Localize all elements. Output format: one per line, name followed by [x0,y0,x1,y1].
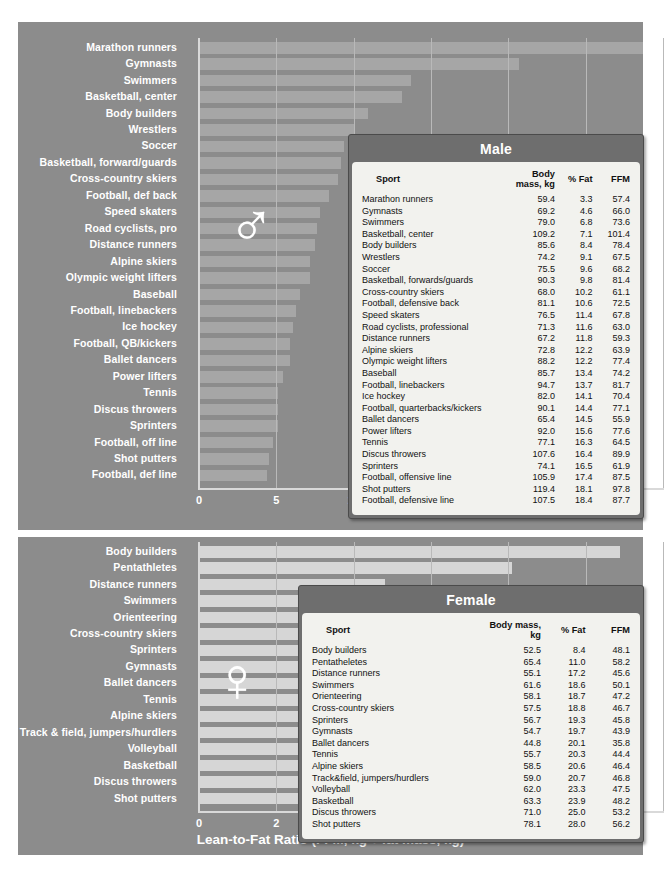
cell-ffm: 89.9 [592,449,630,461]
cell-pct-fat: 23.9 [541,796,586,808]
cell-pct-fat: 19.3 [541,715,586,727]
cell-sport: Body builders [362,240,504,252]
cell-pct-fat: 6.8 [555,217,593,229]
cell-body-mass: 109.2 [504,229,555,241]
bar [199,793,300,805]
cell-pct-fat: 10.6 [555,298,593,310]
male-label-22: Discus throwers [94,404,177,415]
cell-sport: Swimmers [362,217,504,229]
female-label-0: Body builders [106,546,177,557]
female-label-9: Tennis [143,694,177,705]
cell-body-mass: 61.6 [481,680,541,692]
table-row: Pentatheletes65.411.058.2 [312,657,630,669]
female-label-1: Pentathletes [113,562,177,573]
cell-sport: Ice hockey [362,391,504,403]
table-row: Wrestlers74.29.167.5 [362,252,630,264]
cell-pct-fat: 8.4 [541,645,586,657]
cell-sport: Football, offensive line [362,472,504,484]
cell-ffm: 63.9 [592,345,630,357]
cell-ffm: 45.8 [585,715,630,727]
bar [199,371,283,383]
cell-pct-fat: 16.5 [555,461,593,473]
male-label-5: Wrestlers [128,124,177,135]
male-label-8: Cross-country skiers [70,173,177,184]
cell-sport: Gymnasts [362,206,504,218]
y-axis-line [198,38,200,490]
table-row: Football, quarterbacks/kickers90.114.477… [362,403,630,415]
cell-ffm: 63.0 [592,322,630,334]
table-row: Discus throwers71.025.053.2 [312,807,630,819]
bar [199,453,269,465]
cell-body-mass: 56.7 [481,715,541,727]
cell-sport: Cross-country skiers [312,703,481,715]
cell-body-mass: 77.1 [504,437,555,449]
cell-body-mass: 76.5 [504,310,555,322]
cell-pct-fat: 25.0 [541,807,586,819]
table-row: Basketball, forwards/guards90.39.881.4 [362,275,630,287]
cell-pct-fat: 13.4 [555,368,593,380]
cell-body-mass: 59.4 [504,194,555,206]
male-table-body: Sport Body mass, kg % Fat FFM Marathon r… [352,162,640,515]
table-row: Basketball63.323.948.2 [312,796,630,808]
cell-body-mass: 75.5 [504,264,555,276]
cell-sport: Speed skaters [362,310,504,322]
gridline [663,38,664,488]
table-row: Speed skaters76.511.467.8 [362,310,630,322]
male-label-14: Olympic weight lifters [66,272,177,283]
cell-sport: Olympic weight lifters [362,356,504,368]
male-table-title: Male [352,138,640,162]
female-label-14: Discus throwers [94,776,177,787]
gridline [663,542,664,811]
cell-body-mass: 74.2 [504,252,555,264]
table-row: Distance runners67.211.859.3 [362,333,630,345]
cell-ffm: 61.1 [592,287,630,299]
cell-sport: Shot putters [312,819,481,831]
table-row: Cross-country skiers68.010.261.1 [362,287,630,299]
cell-ffm: 81.4 [592,275,630,287]
table-row: Football, offensive line105.917.487.5 [362,472,630,484]
cell-ffm: 66.0 [592,206,630,218]
bar [199,404,278,416]
cell-pct-fat: 14.4 [555,403,593,415]
cell-body-mass: 58.1 [481,691,541,703]
cell-ffm: 47.5 [585,784,630,796]
cell-body-mass: 107.6 [504,449,555,461]
cell-pct-fat: 18.8 [541,703,586,715]
table-row: Ice hockey82.014.170.4 [362,391,630,403]
cell-pct-fat: 10.2 [555,287,593,299]
table-header-row: Sport Body mass, kg % Fat FFM [362,168,630,194]
cell-ffm: 68.2 [592,264,630,276]
female-tick-6: 12 [657,817,668,829]
cell-pct-fat: 9.8 [555,275,593,287]
cell-sport: Basketball [312,796,481,808]
male-label-13: Alpine skiers [110,256,177,267]
cell-body-mass: 68.0 [504,287,555,299]
cell-sport: Cross-country skiers [362,287,504,299]
male-table: Sport Body mass, kg % Fat FFM Marathon r… [362,168,630,507]
female-label-4: Orienteering [113,612,177,623]
cell-pct-fat: 12.2 [555,345,593,357]
male-label-17: Ice hockey [122,321,177,332]
cell-sport: Basketball, forwards/guards [362,275,504,287]
male-tick-6: 30 [657,494,668,506]
male-chart-panel: Marathon runnersGymnastsSwimmersBasketba… [18,22,643,530]
gridline [276,542,277,811]
female-label-3: Swimmers [124,595,177,606]
cell-sport: Wrestlers [362,252,504,264]
cell-ffm: 43.9 [585,726,630,738]
cell-body-mass: 79.0 [504,217,555,229]
cell-ffm: 46.7 [585,703,630,715]
cell-ffm: 58.2 [585,657,630,669]
male-label-0: Marathon runners [86,42,177,53]
cell-pct-fat: 8.4 [555,240,593,252]
cell-sport: Tennis [312,749,481,761]
bar [199,272,310,284]
table-row: Road cyclists, professional71.311.663.0 [362,322,630,334]
female-label-12: Volleyball [128,743,177,754]
cell-body-mass: 55.7 [481,749,541,761]
cell-ffm: 77.1 [592,403,630,415]
cell-sport: Football, defensive line [362,495,504,507]
cell-ffm: 35.8 [585,738,630,750]
col-sport: Sport [362,168,504,194]
